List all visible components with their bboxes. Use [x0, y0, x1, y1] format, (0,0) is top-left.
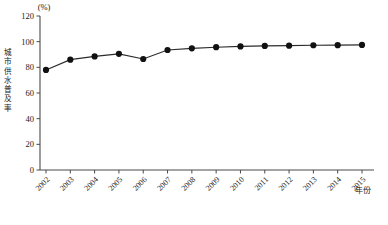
- y-axis-title-char: 率: [1, 104, 14, 113]
- y-tick-label: 80: [26, 62, 35, 72]
- y-tick-label: 40: [26, 114, 35, 124]
- data-point: [310, 42, 316, 48]
- data-point: [92, 53, 98, 59]
- data-point: [43, 67, 49, 73]
- x-tick-label: 2007: [155, 175, 173, 193]
- y-axis-title-char: 供: [1, 67, 14, 76]
- y-axis-ticks: 020406080100120: [21, 11, 40, 175]
- y-axis-title-char: 市: [1, 57, 14, 66]
- x-axis-title: 年份: [355, 185, 371, 195]
- y-axis-title-char: 及: [1, 94, 14, 103]
- x-tick-label: 2014: [325, 175, 343, 193]
- data-point: [237, 43, 243, 49]
- x-tick-label: 2009: [204, 175, 222, 193]
- x-tick-label: 2004: [82, 175, 100, 193]
- y-tick-label: 20: [26, 139, 35, 149]
- y-tick-label: 100: [21, 37, 34, 47]
- x-tick-label: 2008: [180, 175, 198, 193]
- x-tick-label: 2012: [277, 175, 295, 193]
- chart-figure: 城 市 供 水 普 及 率 (%) 020406080100120 200220…: [0, 0, 388, 225]
- x-tick-label: 2011: [253, 175, 270, 192]
- x-tick-label: 2006: [131, 175, 149, 193]
- data-point: [116, 51, 122, 57]
- y-axis-unit-label: (%): [38, 2, 51, 12]
- y-tick-label: 120: [21, 11, 34, 21]
- data-point: [140, 56, 146, 62]
- unit-label-group: (%): [38, 2, 51, 12]
- x-tick-label: 2005: [107, 175, 125, 193]
- y-axis-title-char: 水: [1, 76, 14, 85]
- y-axis-title-char: 普: [1, 85, 14, 94]
- x-axis-tick-labels: 2002200320042005200620072008200920102011…: [34, 175, 368, 193]
- data-point: [335, 42, 341, 48]
- x-tick-label: 2010: [228, 175, 246, 193]
- x-tick-label: 2002: [34, 175, 52, 193]
- data-point: [213, 44, 219, 50]
- x-tick-label: 2013: [301, 175, 319, 193]
- y-tick-label: 0: [30, 165, 34, 175]
- data-point: [189, 45, 195, 51]
- data-point: [359, 42, 365, 48]
- x-tick-label: 2003: [58, 175, 76, 193]
- data-point: [262, 43, 268, 49]
- y-tick-label: 60: [26, 88, 35, 98]
- data-point: [67, 57, 73, 63]
- data-point: [286, 43, 292, 49]
- y-axis-title: 城 市 供 水 普 及 率: [1, 48, 14, 113]
- data-point: [164, 47, 170, 53]
- line-chart-plot: (%) 020406080100120 20022003200420052006…: [0, 0, 388, 225]
- y-axis-title-char: 城: [1, 48, 14, 57]
